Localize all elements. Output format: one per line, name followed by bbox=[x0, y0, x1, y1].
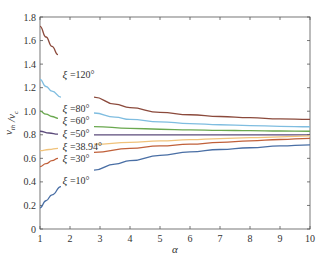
x-tick-label: 10 bbox=[305, 233, 315, 244]
x-tick-label: 3 bbox=[98, 233, 103, 244]
series-line bbox=[40, 79, 61, 97]
y-tick-label: 0.8 bbox=[24, 129, 37, 140]
series-label: ξ =60° bbox=[63, 114, 90, 127]
y-axis-label: vth /vc bbox=[2, 110, 20, 135]
series-label: ξ =50° bbox=[63, 127, 90, 140]
x-tick-label: 9 bbox=[278, 233, 283, 244]
series-line bbox=[94, 97, 310, 119]
series-line bbox=[40, 158, 58, 166]
series-label: ξ =120° bbox=[63, 68, 95, 81]
x-tick-label: 4 bbox=[128, 233, 133, 244]
series-line bbox=[40, 111, 58, 118]
y-tick-label: 0.2 bbox=[24, 200, 37, 211]
series-line bbox=[40, 131, 58, 134]
y-tick-label: 0 bbox=[31, 224, 36, 235]
x-tick-label: 7 bbox=[218, 233, 223, 244]
x-axis-label: α bbox=[172, 243, 178, 255]
x-tick-label: 6 bbox=[188, 233, 193, 244]
x-tick-label: 2 bbox=[68, 233, 73, 244]
line-chart: 1234567891000.20.40.60.81.01.21.41.61.8 … bbox=[0, 0, 320, 259]
y-tick-label: 1.0 bbox=[24, 106, 37, 117]
series-line bbox=[94, 127, 310, 132]
y-tick-label: 0.6 bbox=[24, 153, 37, 164]
x-tick-label: 8 bbox=[248, 233, 253, 244]
y-tick-label: 0.4 bbox=[24, 176, 37, 187]
series-line bbox=[40, 148, 58, 150]
series-line bbox=[40, 187, 61, 208]
y-tick-label: 1.6 bbox=[24, 35, 37, 46]
x-tick-label: 1 bbox=[38, 233, 43, 244]
svg-text:vth /vc: vth /vc bbox=[2, 110, 20, 135]
y-tick-label: 1.2 bbox=[24, 82, 37, 93]
y-tick-label: 1.8 bbox=[24, 12, 37, 23]
series-label: ξ =10° bbox=[63, 174, 90, 187]
y-tick-label: 1.4 bbox=[24, 59, 37, 70]
x-tick-label: 5 bbox=[158, 233, 163, 244]
series-label: ξ =30° bbox=[63, 152, 90, 165]
